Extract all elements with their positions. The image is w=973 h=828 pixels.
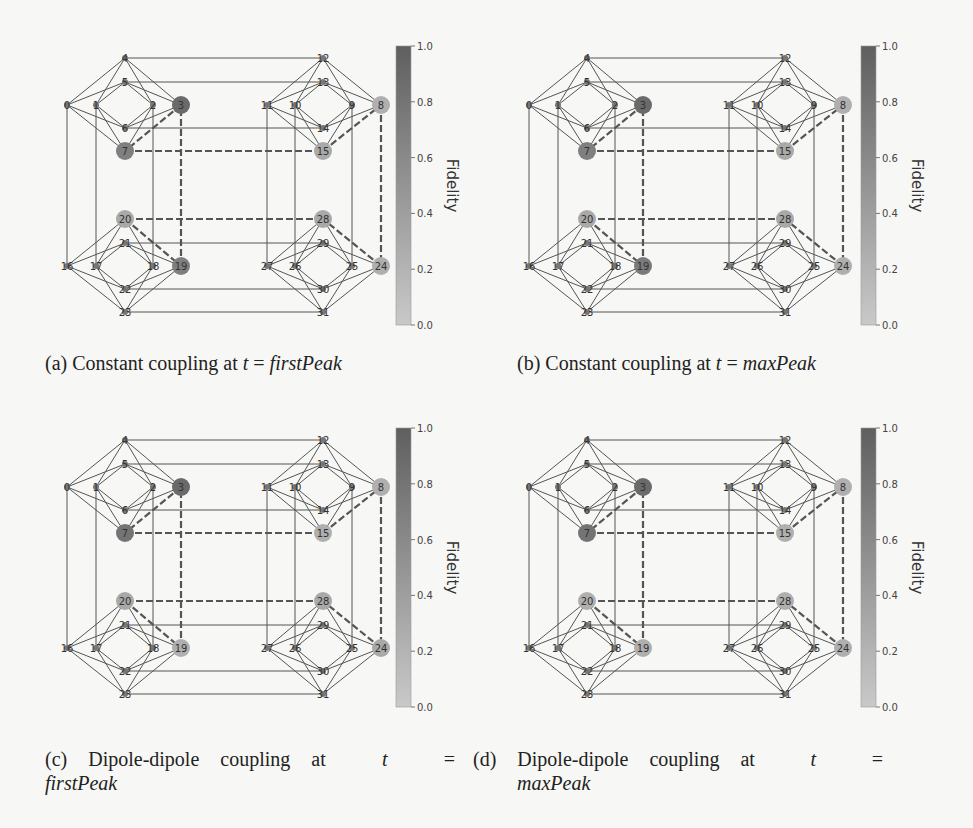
node-label: 1 xyxy=(555,482,561,493)
node-label: 7 xyxy=(584,146,590,157)
panel-d: 0123456789101112131415161718192021222324… xyxy=(490,410,973,740)
colorbar-tick-label: 1.0 xyxy=(417,423,433,434)
caption-d-var: t xyxy=(810,746,816,772)
graph-b: 0123456789101112131415161718192021222324… xyxy=(490,0,973,330)
node-label: 11 xyxy=(723,482,736,493)
node-label: 18 xyxy=(147,643,160,654)
node-label: 5 xyxy=(584,77,590,88)
edge xyxy=(785,440,843,487)
node-label: 16 xyxy=(523,261,536,272)
caption-a-var: t xyxy=(243,352,249,374)
node-label: 18 xyxy=(609,643,622,654)
node-label: 10 xyxy=(289,482,302,493)
node-label: 22 xyxy=(119,284,132,295)
node-label: 29 xyxy=(317,620,330,631)
node-label: 30 xyxy=(317,666,330,677)
node-label: 10 xyxy=(289,100,302,111)
edge xyxy=(125,487,153,510)
node-label: 17 xyxy=(552,643,565,654)
node-label: 0 xyxy=(64,482,70,493)
caption-c-value: firstPeak xyxy=(45,772,117,795)
node-label: 19 xyxy=(637,643,650,654)
node-label: 12 xyxy=(317,435,330,446)
panel-b: 0123456789101112131415161718192021222324… xyxy=(490,0,973,330)
node-label: 27 xyxy=(723,261,736,272)
colorbar-tick-label: 0.2 xyxy=(882,264,898,275)
node-label: 13 xyxy=(317,77,330,88)
node-label: 28 xyxy=(779,214,792,225)
node-label: 8 xyxy=(840,100,846,111)
colorbar xyxy=(861,46,876,325)
edge xyxy=(587,464,615,487)
edge xyxy=(785,648,843,694)
node-label: 12 xyxy=(317,53,330,64)
node-label: 17 xyxy=(90,643,103,654)
node-label: 11 xyxy=(723,100,736,111)
caption-d-eq: = xyxy=(872,746,883,772)
node-label: 5 xyxy=(584,459,590,470)
node-label: 21 xyxy=(119,620,132,631)
colorbar-tick-label: 0.6 xyxy=(417,535,433,546)
node-label: 22 xyxy=(119,666,132,677)
node-label: 21 xyxy=(581,620,594,631)
node-label: 0 xyxy=(526,482,532,493)
colorbar-tick-label: 0.6 xyxy=(417,153,433,164)
node-label: 7 xyxy=(584,528,590,539)
edge xyxy=(96,464,125,487)
node-label: 28 xyxy=(779,596,792,607)
edge xyxy=(529,648,587,694)
node-label: 11 xyxy=(261,482,274,493)
node-label: 14 xyxy=(779,505,792,516)
node-label: 15 xyxy=(317,528,330,539)
edge xyxy=(125,464,153,487)
node-label: 29 xyxy=(779,238,792,249)
edge xyxy=(67,648,125,694)
edge xyxy=(125,82,153,105)
node-label: 2 xyxy=(612,100,618,111)
colorbar xyxy=(396,428,411,707)
caption-d-text: (d) Dipole-dipole coupling at xyxy=(473,746,755,772)
edge xyxy=(323,266,381,312)
colorbar-tick-label: 0.8 xyxy=(882,97,898,108)
colorbar-label: Fidelity xyxy=(908,541,926,595)
node-label: 13 xyxy=(779,459,792,470)
node-label: 3 xyxy=(178,482,184,493)
edge xyxy=(529,440,587,487)
node-label: 10 xyxy=(751,482,764,493)
edge xyxy=(67,266,125,312)
node-label: 25 xyxy=(808,261,821,272)
node-label: 3 xyxy=(640,100,646,111)
caption-a-value: firstPeak xyxy=(270,352,342,374)
node-label: 25 xyxy=(346,261,359,272)
caption-b-var: t xyxy=(716,352,722,374)
edge xyxy=(587,487,615,510)
node-label: 15 xyxy=(779,528,792,539)
caption-d-value: maxPeak xyxy=(517,772,590,795)
colorbar-tick-label: 0.0 xyxy=(417,702,433,713)
colorbar-tick-label: 0.6 xyxy=(882,153,898,164)
colorbar-tick-label: 0.2 xyxy=(417,264,433,275)
node-label: 26 xyxy=(289,643,302,654)
edge xyxy=(323,648,381,694)
node-label: 4 xyxy=(122,435,128,446)
node-label: 19 xyxy=(637,261,650,272)
colorbar-tick-label: 0.6 xyxy=(882,535,898,546)
node-label: 11 xyxy=(261,100,274,111)
node-label: 26 xyxy=(289,261,302,272)
node-label: 20 xyxy=(119,596,132,607)
caption-c-eq: = xyxy=(444,746,455,772)
node-label: 6 xyxy=(584,505,590,516)
colorbar-tick-label: 0.4 xyxy=(882,208,898,219)
colorbar-tick-label: 0.4 xyxy=(882,590,898,601)
colorbar-tick-label: 1.0 xyxy=(882,423,898,434)
node-label: 9 xyxy=(811,482,817,493)
colorbar-tick-label: 0.8 xyxy=(417,479,433,490)
node-label: 14 xyxy=(779,123,792,134)
node-label: 16 xyxy=(61,261,74,272)
edge xyxy=(323,58,381,105)
node-label: 10 xyxy=(751,100,764,111)
node-label: 6 xyxy=(122,505,128,516)
node-label: 25 xyxy=(346,643,359,654)
caption-a-eq: = xyxy=(253,352,264,374)
node-label: 31 xyxy=(317,689,330,700)
